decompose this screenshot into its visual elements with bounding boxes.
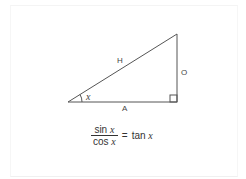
- hypotenuse-label: H: [117, 56, 123, 65]
- right-triangle: [0, 0, 246, 179]
- result: tan x: [132, 130, 153, 141]
- fraction: sin x cos x: [91, 124, 118, 147]
- cos-text: cos: [93, 136, 109, 147]
- tan-text: tan: [132, 130, 146, 141]
- right-angle-marker-icon: [170, 95, 177, 102]
- angle-arc-icon: [80, 95, 82, 103]
- numerator: sin x: [92, 124, 116, 135]
- opposite-label: O: [181, 68, 187, 77]
- sin-text: sin: [94, 124, 107, 135]
- tan-identity-equation: sin x cos x = tan x: [91, 124, 153, 147]
- result-var: x: [148, 130, 152, 141]
- adjacent-label: A: [122, 104, 127, 113]
- denominator: cos x: [91, 135, 118, 147]
- angle-label: x: [86, 91, 90, 102]
- denominator-var: x: [111, 136, 115, 147]
- equals-sign: =: [122, 130, 128, 141]
- numerator-var: x: [110, 124, 114, 135]
